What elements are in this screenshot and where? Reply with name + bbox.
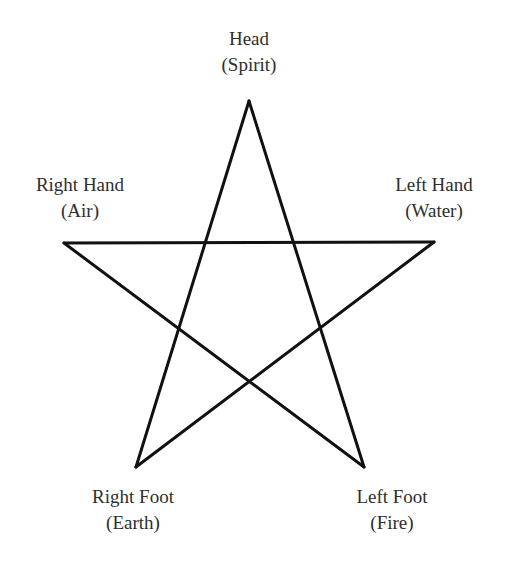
label-right-hand: Right Hand (Air)	[0, 172, 160, 224]
label-left-foot: Left Foot (Fire)	[312, 484, 472, 536]
label-head-element: (Spirit)	[169, 52, 329, 78]
label-left-hand-element: (Water)	[354, 198, 505, 224]
stroke-left-foot-to-right-hand	[64, 243, 364, 467]
label-left-hand: Left Hand (Water)	[354, 172, 505, 224]
label-right-hand-name: Right Hand	[0, 172, 160, 198]
stroke-right-hand-to-left-hand	[64, 242, 434, 243]
label-right-foot-element: (Earth)	[53, 510, 213, 536]
label-left-foot-name: Left Foot	[312, 484, 472, 510]
stroke-head-to-left-foot	[249, 101, 364, 467]
label-right-foot: Right Foot (Earth)	[53, 484, 213, 536]
stroke-left-hand-to-right-foot	[136, 242, 434, 467]
label-head-name: Head	[169, 26, 329, 52]
label-right-hand-element: (Air)	[0, 198, 160, 224]
stroke-right-foot-to-head	[136, 101, 249, 467]
label-left-hand-name: Left Hand	[354, 172, 505, 198]
label-right-foot-name: Right Foot	[53, 484, 213, 510]
label-head: Head (Spirit)	[169, 26, 329, 78]
label-left-foot-element: (Fire)	[312, 510, 472, 536]
